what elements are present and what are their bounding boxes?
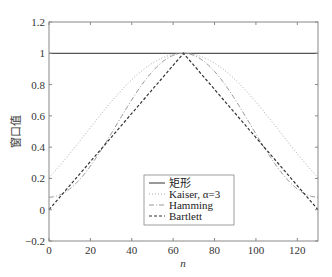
svg-text:40: 40 bbox=[126, 244, 138, 256]
chart: 020406080100120−0.200.20.40.60.811.2 n 窗… bbox=[0, 0, 332, 277]
svg-text:0.8: 0.8 bbox=[31, 79, 45, 91]
svg-text:100: 100 bbox=[248, 244, 265, 256]
x-axis-label: n bbox=[180, 257, 186, 269]
y-axis-label: 窗口值 bbox=[9, 115, 22, 148]
legend: 矩形 Kaiser, α=3 Hamming Bartlett bbox=[144, 175, 234, 225]
svg-text:60: 60 bbox=[168, 244, 180, 256]
legend-label-bartlett: Bartlett bbox=[169, 210, 202, 222]
svg-text:0: 0 bbox=[46, 244, 52, 256]
svg-text:120: 120 bbox=[289, 244, 306, 256]
svg-text:0.6: 0.6 bbox=[31, 110, 45, 122]
svg-text:1: 1 bbox=[40, 47, 46, 59]
svg-text:−0.2: −0.2 bbox=[25, 235, 45, 247]
svg-text:0.4: 0.4 bbox=[31, 141, 45, 153]
svg-text:1.2: 1.2 bbox=[31, 16, 45, 28]
svg-text:20: 20 bbox=[85, 244, 97, 256]
series-kaiser bbox=[49, 53, 318, 177]
svg-text:0.2: 0.2 bbox=[31, 172, 45, 184]
svg-text:80: 80 bbox=[209, 244, 221, 256]
svg-text:0: 0 bbox=[40, 204, 46, 216]
